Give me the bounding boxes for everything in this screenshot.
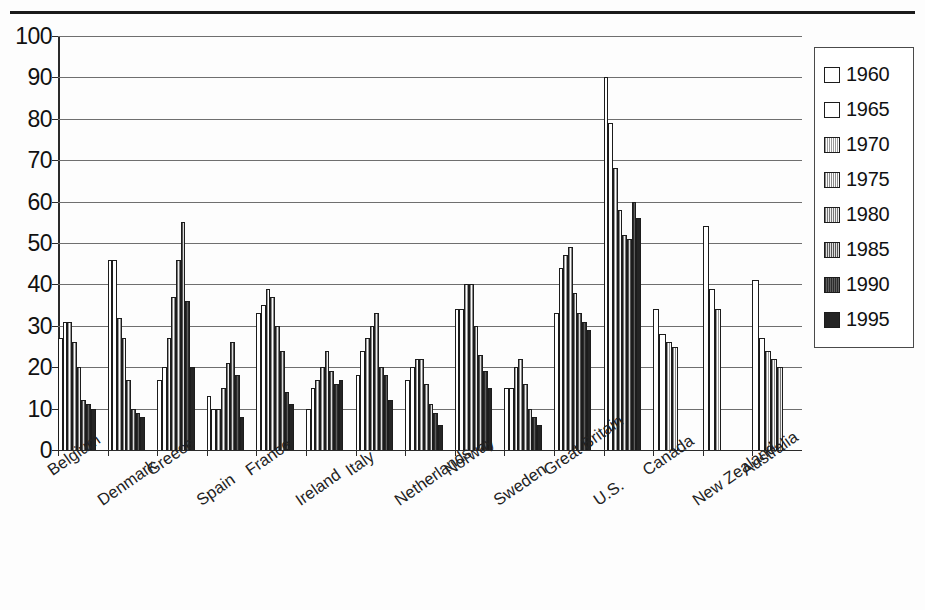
bar-group	[356, 36, 406, 450]
top-divider-rule	[10, 11, 915, 14]
x-axis-label: Sweden	[490, 460, 550, 510]
y-tick-mark-30	[52, 326, 58, 327]
bar	[715, 309, 721, 450]
y-tick-mark-60	[52, 202, 58, 203]
y-tick-mark-50	[52, 243, 58, 244]
legend-swatch-light-hatched-square	[824, 137, 840, 153]
bar	[388, 400, 393, 450]
y-tick-mark-80	[52, 119, 58, 120]
legend-label: 1975	[846, 168, 889, 191]
legend-item: 1965	[824, 92, 913, 127]
bar-group	[405, 36, 455, 450]
legend-item: 1970	[824, 127, 913, 162]
bar-group	[108, 36, 158, 450]
y-tick-mark-0	[52, 450, 58, 451]
bar	[537, 425, 542, 450]
bar-group	[455, 36, 505, 450]
bar-group	[256, 36, 306, 450]
y-tick-label-20: 20	[4, 354, 52, 381]
legend-item: 1995	[824, 302, 913, 337]
plot-area	[58, 36, 802, 450]
bar-group	[306, 36, 356, 450]
bar-groups	[58, 36, 802, 450]
y-tick-label-40: 40	[4, 271, 52, 298]
legend-label: 1995	[846, 308, 889, 331]
y-tick-mark-20	[52, 367, 58, 368]
bar-group	[653, 36, 703, 450]
y-tick-mark-70	[52, 160, 58, 161]
legend-label: 1960	[846, 63, 889, 86]
y-tick-mark-100	[52, 36, 58, 37]
legend-swatch-medium-dark-hatched-square	[824, 242, 840, 258]
legend-swatch-solid-black-square	[824, 312, 840, 328]
y-axis-tick-labels: 0102030405060708090100	[0, 36, 52, 450]
legend-item: 1980	[824, 197, 913, 232]
y-tick-label-80: 80	[4, 105, 52, 132]
legend-item: 1960	[824, 57, 913, 92]
bar	[240, 417, 245, 450]
y-tick-label-90: 90	[4, 64, 52, 91]
legend-label: 1965	[846, 98, 889, 121]
bar-group	[58, 36, 108, 450]
y-tick-label-70: 70	[4, 147, 52, 174]
y-tick-mark-40	[52, 284, 58, 285]
legend-label: 1985	[846, 238, 889, 261]
legend-swatch-medium-hatched-square	[824, 207, 840, 223]
legend-swatch-light-hatched-square	[824, 172, 840, 188]
bar-group	[703, 36, 753, 450]
y-tick-mark-90	[52, 77, 58, 78]
bar-group	[207, 36, 257, 450]
y-tick-label-50: 50	[4, 230, 52, 257]
legend-item: 1990	[824, 267, 913, 302]
legend-item: 1975	[824, 162, 913, 197]
y-tick-label-0: 0	[4, 437, 52, 464]
bar	[140, 417, 145, 450]
bar-group	[752, 36, 802, 450]
bar	[339, 380, 344, 450]
legend-swatch-white-open-square	[824, 67, 840, 83]
bar-group	[554, 36, 604, 450]
bar-group	[604, 36, 654, 450]
x-axis-label: Ireland	[292, 465, 344, 510]
bar-group	[504, 36, 554, 450]
legend-label: 1980	[846, 203, 889, 226]
bar-group	[157, 36, 207, 450]
bar	[438, 425, 443, 450]
x-axis-label: U.S.	[590, 476, 627, 510]
legend-swatch-white-open-square	[824, 102, 840, 118]
legend-item: 1985	[824, 232, 913, 267]
legend-label: 1990	[846, 273, 889, 296]
y-tick-label-30: 30	[4, 312, 52, 339]
x-axis-label: Spain	[193, 470, 238, 510]
y-tick-label-10: 10	[4, 395, 52, 422]
bar	[636, 218, 641, 450]
chart-page: 0102030405060708090100 BelgiumDenmarkGre…	[0, 0, 925, 610]
legend-swatch-dark-hatched-square	[824, 277, 840, 293]
y-tick-mark-10	[52, 409, 58, 410]
legend: 19601965197019751980198519901995	[814, 47, 914, 348]
y-tick-label-100: 100	[4, 23, 52, 50]
legend-label: 1970	[846, 133, 889, 156]
bar	[672, 347, 678, 451]
y-tick-label-60: 60	[4, 188, 52, 215]
x-axis-label: Italy	[342, 447, 378, 480]
x-axis-category-labels: BelgiumDenmarkGreeceSpainFranceIrelandIt…	[58, 452, 802, 602]
